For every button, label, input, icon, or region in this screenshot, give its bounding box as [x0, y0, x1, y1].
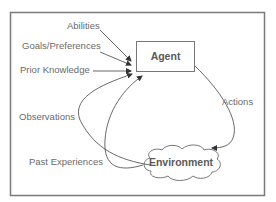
actions-label: Actions	[222, 96, 253, 107]
abilities-label: Abilities	[67, 20, 100, 31]
environment-label: Environment	[149, 156, 214, 168]
prior-knowledge-label: Prior Knowledge	[20, 64, 90, 75]
agent-label: Agent	[151, 50, 181, 62]
environment-node: Environment	[144, 145, 220, 181]
goals-preferences-label: Goals/Preferences	[22, 40, 101, 51]
agent-node: Agent	[137, 42, 195, 72]
past-experiences-label: Past Experiences	[29, 156, 103, 167]
agent-environment-diagram: Agent Environment Abilities Goals/Prefer…	[0, 0, 276, 202]
observations-label: Observations	[19, 111, 75, 122]
